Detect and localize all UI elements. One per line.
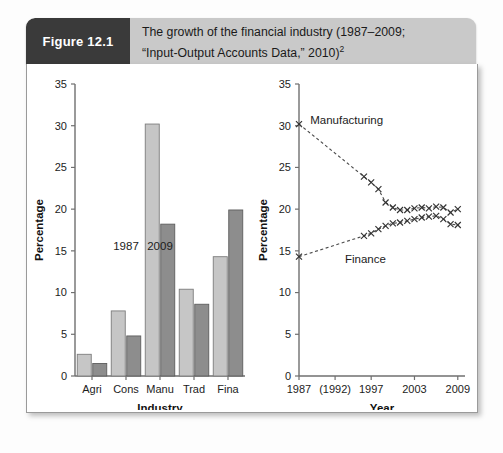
bar-trad-2009 [195,304,209,376]
line-y-axis-title: Percentage [257,199,269,261]
marker-manufacturing-1996 [361,174,367,180]
figure-caption-footnote-marker: 2 [340,44,345,54]
figure-caption: The growth of the financial industry (19… [142,24,468,61]
figure-number-badge: Figure 12.1 [26,18,130,64]
line-x-tick-label-1987: 1987 [287,383,311,395]
bar-y-tick-label: 20 [55,203,67,215]
bar-y-tick-label: 10 [55,286,67,298]
bar-y-tick-label: 35 [55,78,67,90]
line-x-axis-title: Year [370,402,395,410]
figure-caption-line-2: “Input-Output Accounts Data,” 2010) [142,46,340,60]
marker-finance-1997 [368,230,374,236]
bar-x-tick-label-fina: Fina [217,383,239,395]
bar-y-tick-label: 25 [55,161,67,173]
line-y-tick-label: 10 [279,286,291,298]
bar-chart: 05101520253035PercentageAgriConsManuTrad… [33,78,245,410]
bar-y-tick-label: 30 [55,120,67,132]
bar-x-tick-label-cons: Cons [113,383,139,395]
bar-x-axis-title: Industry [137,402,183,410]
trend-line-manufacturing [299,124,458,212]
marker-manufacturing-1999 [383,199,389,205]
marker-manufacturing-2009 [455,206,461,212]
bar-agri-1987 [77,354,91,376]
marker-finance-1999 [383,223,389,229]
line-y-tick-label: 15 [279,245,291,257]
bar-agri-2009 [93,363,107,376]
bar-y-tick-label: 0 [61,370,67,382]
bar-y-tick-label: 5 [61,328,67,340]
bar-cons-2009 [127,336,141,376]
line-y-tick-label: 25 [279,161,291,173]
marker-manufacturing-2008 [448,209,454,215]
bar-x-tick-label-manu: Manu [146,383,174,395]
bar-fina-1987 [213,257,227,376]
line-x-tick-label-2003: 2003 [402,383,426,395]
marker-finance-2009 [455,222,461,228]
figure-number-label: Figure 12.1 [43,34,114,49]
marker-manufacturing-2002 [404,207,410,213]
line-y-tick-label: 20 [279,203,291,215]
figure-plot-panel: 05101520253035PercentageAgriConsManuTrad… [26,64,478,413]
line-x-tick-label-2009: 2009 [446,383,470,395]
series-label-manufacturing: Manufacturing [310,114,383,126]
bar-annotation-2009: 2009 [147,240,173,252]
marker-manufacturing-1998 [375,186,381,192]
bar-trad-1987 [179,289,193,376]
line-y-tick-label: 30 [279,120,291,132]
bar-annotation-1987: 1987 [113,240,139,252]
bar-x-tick-label-agri: Agri [82,383,102,395]
marker-manufacturing-1997 [368,179,374,185]
line-x-tick-label-1997: 1997 [359,383,383,395]
figure-container: Figure 12.1 The growth of the financial … [0,0,503,453]
bar-y-tick-label: 15 [55,245,67,257]
bar-cons-1987 [111,311,125,376]
bar-y-axis-title: Percentage [33,199,45,261]
marker-manufacturing-2005 [426,205,432,211]
bar-fina-2009 [229,210,243,376]
charts-canvas: 05101520253035PercentageAgriConsManuTrad… [27,64,475,410]
marker-finance-1998 [375,226,381,232]
line-y-tick-label: 35 [279,78,291,90]
line-y-tick-label: 5 [285,328,291,340]
marker-manufacturing-2000 [390,204,396,210]
figure-caption-line-1: The growth of the financial industry (19… [142,25,405,39]
line-chart: 05101520253035Percentage1987(1992)199720… [257,78,470,410]
line-x-tick-label-1992: (1992) [319,383,351,395]
bar-x-tick-label-trad: Trad [183,383,205,395]
trend-line-finance [299,216,458,257]
marker-finance-1996 [361,233,367,239]
marker-finance-2007 [440,216,446,222]
line-y-tick-label: 0 [285,370,291,382]
figure-header: Figure 12.1 The growth of the financial … [26,18,476,64]
series-label-finance: Finance [345,253,386,265]
